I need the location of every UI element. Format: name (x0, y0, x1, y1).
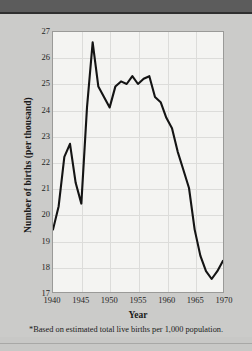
figure-footnote: *Based on estimated total live births pe… (0, 325, 252, 334)
y-tick-label: 19 (10, 237, 50, 246)
bottom-rule (0, 343, 252, 344)
y-axis-ticks: 1718192021222324252627 (8, 31, 50, 293)
plot-area (52, 31, 224, 293)
figure-page: Number of births (per thousand) 17181920… (0, 0, 252, 351)
y-tick-label: 25 (10, 79, 50, 88)
y-tick-label: 23 (10, 132, 50, 141)
y-tick-label: 18 (10, 263, 50, 272)
x-tick-label: 1970 (204, 296, 244, 305)
y-tick-label: 21 (10, 184, 50, 193)
x-axis-ticks: 1940194519501955196019651970 (52, 296, 224, 308)
y-tick-label: 24 (10, 106, 50, 115)
y-tick-label: 20 (10, 210, 50, 219)
y-tick-label: 26 (10, 53, 50, 62)
y-tick-label: 22 (10, 158, 50, 167)
header-band (0, 0, 252, 12)
y-tick-label: 27 (10, 27, 50, 36)
birthrate-line (53, 42, 223, 279)
birthrate-line-series (53, 32, 223, 292)
x-axis-title: Year (52, 310, 224, 320)
